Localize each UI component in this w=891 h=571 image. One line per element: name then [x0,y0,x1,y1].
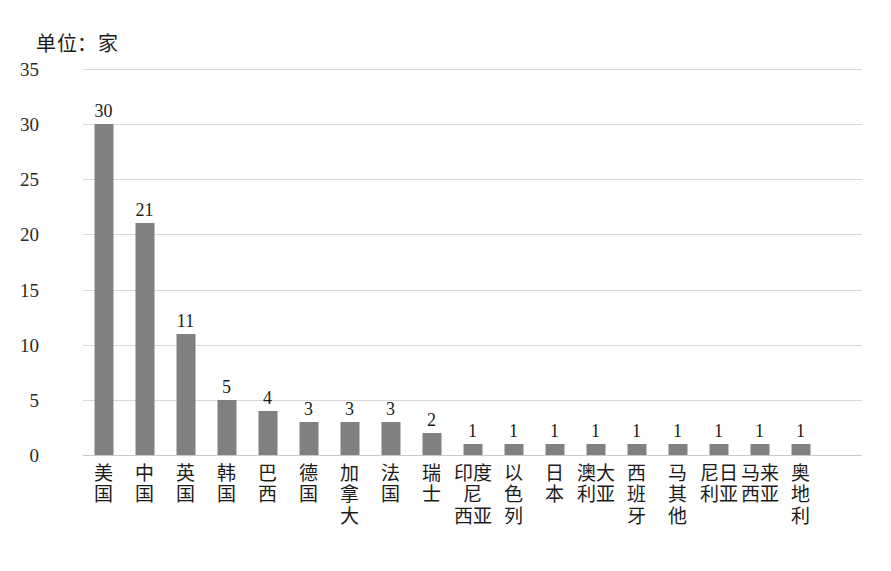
x-axis-label-line: 西亚 [739,484,780,505]
x-axis-label-line: 马来 [739,463,780,484]
x-axis-label-line: 加 [329,463,370,484]
plot-area: 302111543332111111111 [83,69,862,455]
x-axis-label: 中国 [124,463,165,506]
x-axis-label-line: 国 [370,484,411,505]
x-axis-label: 法国 [370,463,411,506]
bar[interactable] [627,444,646,455]
x-axis-label-line: 马 [657,463,698,484]
x-axis-label-line: 法 [370,463,411,484]
x-axis-label-line: 色 [493,484,534,505]
bar-value-label: 1 [509,422,518,440]
x-axis-label-line: 其 [657,484,698,505]
bar[interactable] [668,444,687,455]
bar-slot[interactable]: 1 [780,69,821,455]
bar-slot[interactable]: 21 [124,69,165,455]
y-tick-label: 15 [0,280,39,299]
bar[interactable] [217,400,236,455]
bar[interactable] [750,444,769,455]
x-axis-label: 西班牙 [616,463,657,527]
bar-slot[interactable]: 4 [247,69,288,455]
chart-unit-note: 单位：家 [36,28,118,57]
x-axis-label-line: 班 [616,484,657,505]
x-axis-label-line: 德 [288,463,329,484]
x-axis-label: 日本 [534,463,575,506]
x-axis-label: 英国 [165,463,206,506]
x-axis-label-line: 印度尼 [452,463,493,506]
bar-value-label: 1 [755,422,764,440]
bar[interactable] [94,124,113,455]
bar-value-label: 2 [427,411,436,429]
gridline-0 [83,455,862,456]
y-tick-label: 5 [0,390,39,409]
bar-value-label: 4 [263,389,272,407]
bar-slot[interactable]: 1 [739,69,780,455]
x-axis-label: 德国 [288,463,329,506]
bar[interactable] [381,422,400,455]
x-axis-label-line: 国 [288,484,329,505]
bar[interactable] [176,334,195,455]
bar[interactable] [422,433,441,455]
bar-slot[interactable]: 1 [452,69,493,455]
y-tick-label: 30 [0,115,39,134]
bar[interactable] [709,444,728,455]
y-tick-label: 35 [0,60,39,79]
bar-value-label: 1 [632,422,641,440]
bar-value-label: 3 [386,400,395,418]
bar[interactable] [135,223,154,455]
x-axis-label-line: 西 [616,463,657,484]
bar-slot[interactable]: 3 [288,69,329,455]
x-axis-label-line: 韩 [206,463,247,484]
x-axis-label-line: 利亚 [698,484,739,505]
bar-slot[interactable]: 1 [657,69,698,455]
x-axis-label: 瑞士 [411,463,452,506]
x-axis-label-line: 西亚 [452,506,493,527]
bar-slot[interactable]: 1 [493,69,534,455]
x-axis-label-line: 本 [534,484,575,505]
bar[interactable] [299,422,318,455]
y-tick-label: 0 [0,446,39,465]
bar-value-label: 1 [796,422,805,440]
x-axis-label-line: 利 [780,506,821,527]
bar-slot[interactable]: 3 [370,69,411,455]
x-axis-label-line: 利亚 [575,484,616,505]
bar[interactable] [586,444,605,455]
bar-slot[interactable]: 5 [206,69,247,455]
bar-chart: 单位：家 302111543332111111111 0510152025303… [0,0,891,571]
x-axis-label: 奥地利 [780,463,821,527]
x-axis-label: 加拿大 [329,463,370,527]
bar-slot[interactable]: 1 [534,69,575,455]
bar-slot[interactable]: 1 [698,69,739,455]
bar[interactable] [545,444,564,455]
bar-value-label: 1 [714,422,723,440]
x-axis-label-line: 以 [493,463,534,484]
x-axis-label-line: 牙 [616,506,657,527]
x-axis-label-line: 他 [657,506,698,527]
bar[interactable] [463,444,482,455]
y-tick-label: 20 [0,225,39,244]
x-axis-label-line: 士 [411,484,452,505]
x-axis-label-line: 巴 [247,463,288,484]
bar[interactable] [258,411,277,455]
bar-value-label: 1 [591,422,600,440]
bar-slot[interactable]: 3 [329,69,370,455]
x-axis-label: 尼日利亚 [698,463,739,506]
bar-value-label: 5 [222,378,231,396]
bar-slot[interactable]: 1 [616,69,657,455]
x-axis-label-line: 国 [124,484,165,505]
bar-value-label: 1 [468,422,477,440]
bar-slot[interactable]: 2 [411,69,452,455]
x-axis-label-line: 英 [165,463,206,484]
x-axis-label-line: 尼日 [698,463,739,484]
bar[interactable] [340,422,359,455]
bar[interactable] [504,444,523,455]
bar-slot[interactable]: 1 [575,69,616,455]
bar-value-label: 1 [673,422,682,440]
bar-value-label: 3 [345,400,354,418]
bar-slot[interactable]: 30 [83,69,124,455]
x-axis-label: 澳大利亚 [575,463,616,506]
bar-slot[interactable]: 11 [165,69,206,455]
bar[interactable] [791,444,810,455]
x-axis-label-line: 国 [165,484,206,505]
y-tick-label: 25 [0,170,39,189]
x-axis-label-line: 大 [329,506,370,527]
